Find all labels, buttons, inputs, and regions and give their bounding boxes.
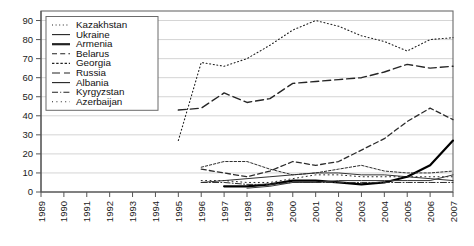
x-tick-label: 1996: [196, 201, 207, 222]
y-tick-label: 60: [22, 72, 33, 83]
x-tick-label: 2006: [425, 201, 436, 222]
chart-legend: KazakhstanUkraineArmeniaBelarusGeorgiaRu…: [46, 17, 158, 111]
y-tick-label: 40: [22, 110, 33, 121]
x-tick-label: 1994: [150, 201, 161, 222]
y-tick-label: 30: [22, 129, 33, 140]
y-tick-label: 10: [22, 167, 33, 178]
x-tick-label: 2004: [379, 201, 390, 222]
x-tick-label: 1989: [36, 201, 47, 222]
x-tick-label: 2000: [287, 201, 298, 222]
x-tick-label: 1997: [219, 201, 230, 222]
x-tick-label: 1998: [242, 201, 253, 222]
y-tick-label: 0: [28, 186, 33, 197]
y-tick-label: 80: [22, 34, 33, 45]
x-tick-label: 2001: [310, 201, 321, 222]
x-tick-label: 1990: [58, 201, 69, 222]
x-tick-label: 2002: [333, 201, 344, 222]
x-tick-label: 2007: [448, 201, 459, 222]
x-tick-label: 1995: [173, 201, 184, 222]
y-tick-label: 90: [22, 15, 33, 26]
x-tick-label: 1993: [127, 201, 138, 222]
y-tick-label: 70: [22, 53, 33, 64]
line-chart: 0102030405060708090 19891990199119921993…: [0, 0, 474, 246]
x-tick-label: 1999: [264, 201, 275, 222]
x-tick-label: 1992: [104, 201, 115, 222]
y-tick-label: 20: [22, 148, 33, 159]
legend-label-azerbaijan: Azerbaijan: [76, 96, 122, 107]
x-tick-label: 1991: [81, 201, 92, 222]
y-tick-label: 50: [22, 91, 33, 102]
x-tick-label: 2005: [402, 201, 413, 222]
x-tick-label: 2003: [356, 201, 367, 222]
chart-container: 0102030405060708090 19891990199119921993…: [0, 0, 474, 246]
